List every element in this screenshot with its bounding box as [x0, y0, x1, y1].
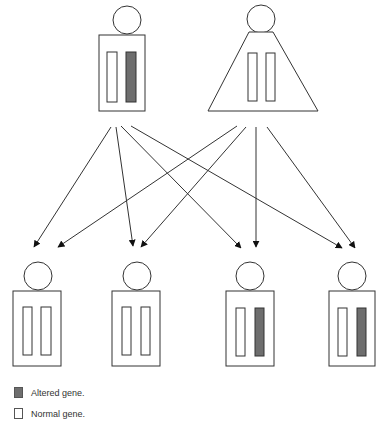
child-4-figure — [329, 262, 375, 366]
gene-normal — [338, 308, 347, 356]
altered-gene-swatch — [14, 387, 23, 398]
legend-normal-label: Normal gene. — [31, 409, 85, 419]
child-2-body — [112, 291, 160, 366]
gene-normal — [107, 52, 117, 102]
child-4-body — [329, 291, 375, 366]
child-1-head — [24, 262, 52, 290]
gene-normal — [266, 53, 275, 101]
inheritance-diagram — [0, 0, 382, 428]
gene-normal — [236, 308, 245, 356]
parent-male-figure — [99, 6, 145, 111]
normal-gene-swatch — [14, 408, 23, 419]
legend-normal: Normal gene. — [14, 408, 85, 419]
child-3-body — [226, 291, 274, 366]
parent-female-body — [208, 32, 318, 111]
gene-normal — [248, 53, 257, 101]
gene-altered — [126, 52, 136, 102]
arrow — [116, 127, 133, 246]
child-4-head — [338, 262, 366, 290]
child-1-body — [13, 291, 61, 366]
arrow — [58, 126, 237, 247]
parent-male-head — [113, 6, 141, 34]
legend-altered-label: Altered gene. — [31, 388, 85, 398]
parent-female-head — [247, 5, 275, 33]
legend-altered: Altered gene. — [14, 387, 85, 398]
child-2-figure — [112, 262, 160, 366]
parent-male-body — [99, 35, 145, 111]
gene-normal — [141, 307, 150, 355]
child-3-figure — [226, 262, 274, 366]
child-2-head — [123, 262, 151, 290]
gene-normal — [23, 307, 32, 355]
gene-normal — [41, 307, 51, 355]
child-1-figure — [13, 262, 61, 366]
gene-altered — [357, 308, 366, 356]
arrow — [34, 127, 111, 247]
child-3-head — [236, 262, 264, 290]
gene-normal — [122, 307, 131, 355]
arrow — [121, 126, 241, 248]
gene-altered — [255, 308, 264, 356]
arrow — [141, 127, 246, 247]
arrows-from-parent-male — [34, 126, 342, 248]
parent-female-figure — [208, 5, 318, 111]
